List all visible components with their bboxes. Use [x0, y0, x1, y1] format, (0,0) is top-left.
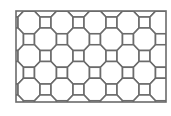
square-tile: [0, 67, 2, 78]
octagon-tile: [0, 45, 7, 68]
square-tile: [106, 84, 117, 95]
square-tile: [139, 51, 150, 62]
square-tile: [90, 0, 101, 11]
octagon-tile: [2, 95, 24, 116]
square-tile: [123, 0, 134, 11]
octagon-tile: [167, 62, 171, 85]
octagon-tile: [84, 112, 106, 116]
square-tile: [40, 51, 51, 62]
square-tile: [123, 67, 134, 78]
octagon-tile: [0, 78, 7, 101]
square-tile: [156, 34, 167, 45]
tiles-group: [0, 0, 170, 116]
square-tile: [156, 67, 167, 78]
octagon-tile: [117, 112, 139, 116]
square-tile: [57, 0, 68, 11]
square-tile: [106, 51, 117, 62]
octagon-tile: [134, 95, 156, 116]
octagon-tile: [150, 112, 170, 116]
square-tile: [139, 17, 150, 28]
octagon-tile: [0, 112, 7, 116]
octagon-tile: [167, 28, 171, 51]
square-tile: [90, 34, 101, 45]
square-tile: [40, 84, 51, 95]
square-tile: [40, 17, 51, 28]
square-tile: [0, 34, 2, 45]
square-tile: [90, 67, 101, 78]
square-tile: [73, 84, 84, 95]
octagon-tile: [51, 112, 73, 116]
square-tile: [0, 101, 2, 112]
square-tile: [0, 0, 2, 11]
square-tile: [73, 17, 84, 28]
octagon-tile: [68, 95, 90, 116]
octagon-tile: [0, 11, 7, 34]
square-tile: [123, 34, 134, 45]
square-tile: [106, 17, 117, 28]
square-tile: [156, 0, 167, 11]
square-tile: [139, 84, 150, 95]
square-tile: [73, 51, 84, 62]
square-tile: [24, 67, 35, 78]
octagon-tile: [35, 95, 57, 116]
octagon-tile: [167, 95, 171, 116]
octagon-tile: [18, 112, 40, 116]
octagon-tile: [167, 0, 171, 17]
octagon-square-tiling: [0, 0, 170, 116]
square-tile: [24, 34, 35, 45]
square-tile: [57, 67, 68, 78]
square-tile: [57, 34, 68, 45]
square-tile: [24, 0, 35, 11]
octagon-tile: [101, 95, 123, 116]
